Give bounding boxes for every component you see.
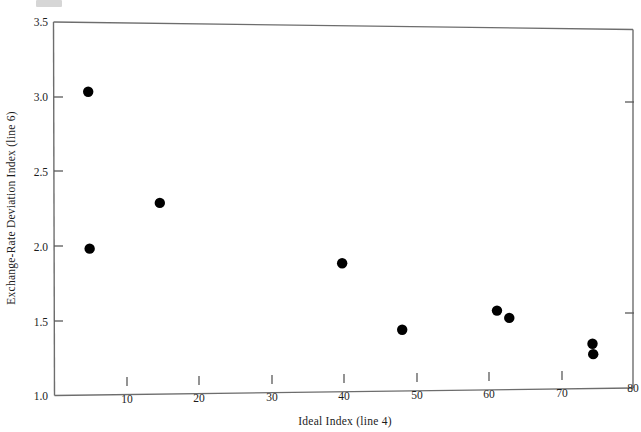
axis-left: [54, 22, 55, 396]
data-point-layer: [83, 87, 598, 360]
y-tick-label-2-0: 2.0: [34, 241, 49, 253]
data-point: [587, 339, 597, 349]
plot-frame: [54, 22, 634, 396]
y-tick-label-1-0: 1.0: [34, 390, 49, 402]
x-tick-label-30: 30: [266, 391, 278, 403]
data-point: [84, 243, 94, 253]
data-point: [397, 325, 407, 335]
x-tick-labels: 10 20 30 40 50 60 70 80: [121, 382, 639, 405]
data-point: [83, 87, 93, 97]
x-tick-label-80: 80: [627, 382, 639, 394]
x-tick-label-40: 40: [338, 390, 350, 402]
data-point: [504, 313, 514, 323]
y-tick-label-1-5: 1.5: [34, 316, 49, 328]
plot-canvas: 3.5 3.0 2.5 2.0 1.5 1.0 10 20 30 40 50 6…: [0, 0, 641, 432]
x-axis-title: Ideal Index (line 4): [298, 415, 391, 428]
y-tick-label-3-0: 3.0: [34, 91, 49, 103]
y-tick-marks: [54, 97, 63, 321]
y-tick-label-3-5: 3.5: [34, 16, 49, 28]
x-tick-label-20: 20: [193, 392, 205, 404]
x-tick-label-10: 10: [121, 393, 133, 405]
x-tick-label-70: 70: [556, 387, 568, 399]
y-axis-title: Exchange-Rate Deviation Index (line 6): [5, 111, 18, 304]
data-point: [337, 258, 347, 268]
data-point: [492, 305, 502, 315]
y-tick-labels: 3.5 3.0 2.5 2.0 1.5 1.0: [34, 16, 49, 402]
x-tick-label-50: 50: [411, 389, 423, 401]
data-point: [588, 349, 598, 359]
scatter-plot-figure: 3.5 3.0 2.5 2.0 1.5 1.0 10 20 30 40 50 6…: [0, 0, 641, 432]
y-tick-label-2-5: 2.5: [34, 166, 49, 178]
x-tick-marks: [127, 371, 562, 386]
data-point: [155, 198, 165, 208]
axis-top: [54, 22, 634, 30]
x-tick-label-60: 60: [483, 388, 495, 400]
